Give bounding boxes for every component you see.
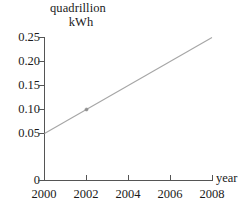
data-line-trend bbox=[45, 38, 213, 134]
data-point-2002 bbox=[85, 108, 88, 111]
chart-figure: quadrillion kWh year 0.25 0.20 0.15 0.10… bbox=[0, 0, 241, 211]
plot-area bbox=[0, 0, 241, 211]
